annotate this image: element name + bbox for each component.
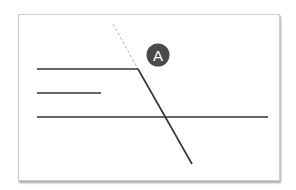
- dashed-extension-line: [113, 24, 138, 69]
- diagram-canvas: A: [0, 0, 296, 190]
- marker-label: A: [153, 47, 163, 64]
- marker-a: A: [147, 44, 170, 67]
